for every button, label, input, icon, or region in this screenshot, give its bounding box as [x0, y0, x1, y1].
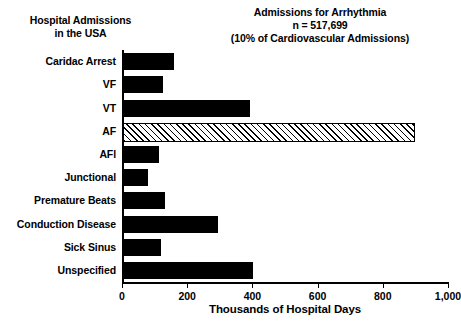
x-axis-tick — [252, 282, 253, 288]
chart-y-axis-heading-line2: in the USA — [8, 27, 153, 40]
x-axis-line — [122, 282, 448, 284]
bar-afl — [123, 146, 159, 163]
x-axis-title: Thousands of Hospital Days — [122, 303, 448, 315]
bar-junctional — [123, 169, 148, 186]
x-axis-tick-label: 800 — [374, 290, 392, 302]
category-label-caridac-arrest: Caridac Arrest — [45, 55, 116, 67]
x-axis-tick — [122, 282, 123, 288]
x-axis-tick-label: 1,000 — [435, 290, 461, 302]
category-label-premature-beats: Premature Beats — [34, 194, 116, 206]
x-axis-tick — [383, 282, 384, 288]
chart-y-axis-heading: Hospital Admissions in the USA — [8, 14, 153, 40]
x-axis-tick-label: 600 — [309, 290, 327, 302]
bar-af — [123, 123, 415, 142]
category-label-conduction-disease: Conduction Disease — [17, 218, 116, 230]
x-axis-tick — [187, 282, 188, 288]
chart-title-line1: Admissions for Arrhythmia — [182, 6, 458, 19]
chart-subtitle-percent: (10% of Cardiovascular Admissions) — [182, 32, 458, 45]
bar-unspecified — [123, 262, 253, 279]
category-label-junctional: Junctional — [64, 171, 116, 183]
x-axis-tick-label: 0 — [119, 290, 125, 302]
x-axis-tick-label: 200 — [178, 290, 196, 302]
x-axis-tick-label: 400 — [244, 290, 262, 302]
plot-area: 02004006008001,000 — [122, 50, 448, 282]
category-label-sick-sinus: Sick Sinus — [64, 241, 116, 253]
category-label-unspecified: Unspecified — [58, 264, 116, 276]
bar-caridac-arrest — [123, 53, 174, 70]
chart-subtitle-n: n = 517,699 — [182, 19, 458, 32]
chart-y-axis-heading-line1: Hospital Admissions — [8, 14, 153, 27]
category-label-afl: AFl — [99, 148, 116, 160]
bar-vt — [123, 100, 250, 117]
x-axis-tick — [318, 282, 319, 288]
bar-premature-beats — [123, 192, 165, 209]
x-axis-tick — [448, 282, 449, 288]
bar-sick-sinus — [123, 239, 161, 256]
category-label-vt: VT — [103, 102, 116, 114]
chart-title: Admissions for Arrhythmia n = 517,699 (1… — [182, 6, 458, 45]
category-label-vf: VF — [103, 78, 116, 90]
bar-vf — [123, 76, 163, 93]
category-label-af: AF — [102, 125, 116, 137]
bar-conduction-disease — [123, 216, 218, 233]
